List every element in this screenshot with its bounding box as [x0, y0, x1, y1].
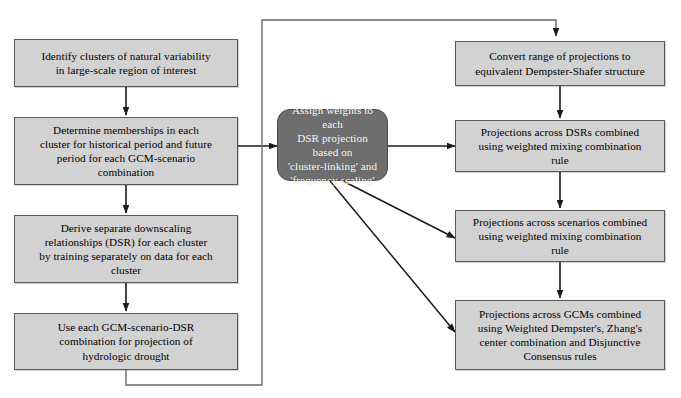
node-use-combination-projection[interactable]: Use each GCM-scenario-DSR combination fo… [14, 313, 238, 370]
node-derive-downscaling[interactable]: Derive separate downscaling relationship… [14, 215, 238, 283]
node-determine-memberships[interactable]: Determine memberships in each cluster fo… [14, 117, 238, 185]
node-assign-weights[interactable]: Assign weights to each DSR projection ba… [277, 109, 388, 181]
node-combine-scenarios-label: Projections across scenarios combined us… [473, 215, 647, 257]
node-derive-downscaling-label: Derive separate downscaling relationship… [39, 221, 212, 277]
node-convert-dempster-shafer-label: Convert range of projections to equivale… [475, 49, 644, 77]
node-convert-dempster-shafer[interactable]: Convert range of projections to equivale… [455, 41, 665, 86]
node-use-combination-projection-label: Use each GCM-scenario-DSR combination fo… [58, 320, 195, 362]
node-combine-gcms[interactable]: Projections across GCMs combined using W… [455, 300, 665, 370]
node-identify-clusters-label: Identify clusters of natural variability… [41, 49, 210, 77]
node-determine-memberships-label: Determine memberships in each cluster fo… [40, 123, 212, 179]
edge-assign-to-scenarios [343, 181, 455, 238]
node-combine-scenarios[interactable]: Projections across scenarios combined us… [455, 210, 665, 262]
node-combine-dsrs-label: Projections across DSRs combined using w… [479, 125, 642, 167]
edge-assign-to-gcms [330, 181, 455, 332]
node-combine-gcms-label: Projections across GCMs combined using W… [478, 307, 642, 363]
node-identify-clusters[interactable]: Identify clusters of natural variability… [14, 39, 238, 87]
node-combine-dsrs[interactable]: Projections across DSRs combined using w… [455, 120, 665, 172]
flowchart-canvas: Identify clusters of natural variability… [0, 0, 681, 398]
node-assign-weights-label: Assign weights to each DSR projection ba… [283, 103, 382, 188]
